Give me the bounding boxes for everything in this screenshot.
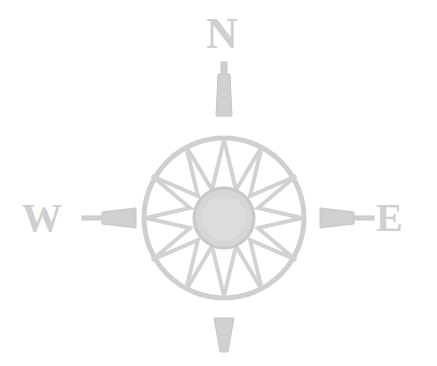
north-pointer-icon <box>216 62 232 116</box>
compass-rose: N W E <box>0 0 437 366</box>
west-pointer-icon <box>82 208 136 228</box>
compass-graphic <box>0 0 437 366</box>
east-pointer-icon <box>320 208 374 228</box>
south-pointer-icon <box>214 318 234 352</box>
